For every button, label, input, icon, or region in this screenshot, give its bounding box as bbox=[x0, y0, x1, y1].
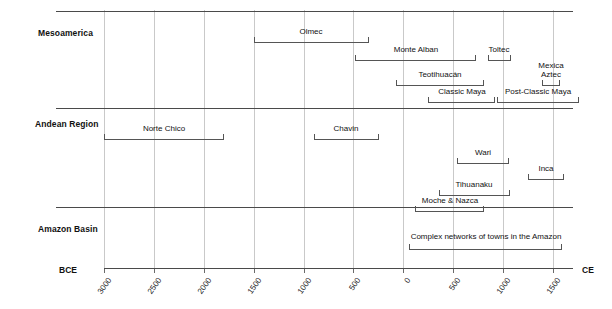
timeline-bar[interactable] bbox=[428, 97, 495, 103]
bar-label: MexicaAztec bbox=[538, 61, 563, 79]
row-rule-top bbox=[56, 11, 573, 12]
tick-label-0: 0 bbox=[402, 276, 412, 285]
bar-line bbox=[428, 102, 495, 103]
bar-label-line: Aztec bbox=[538, 70, 563, 79]
bar-label: Classic Maya bbox=[438, 87, 486, 96]
bar-line bbox=[104, 139, 224, 140]
bar-cap-end bbox=[483, 80, 484, 86]
timeline-bar[interactable] bbox=[409, 244, 562, 250]
tick-mark-1500 bbox=[553, 269, 554, 273]
bar-cap-end bbox=[483, 206, 484, 212]
timeline-bar[interactable] bbox=[415, 206, 484, 212]
gridline-1500 bbox=[553, 10, 554, 268]
bar-cap-end bbox=[378, 134, 379, 140]
tick-mark-1000 bbox=[503, 269, 504, 273]
bar-line bbox=[254, 42, 369, 43]
bar-line bbox=[415, 211, 484, 212]
bar-label: Olmec bbox=[299, 27, 322, 36]
row-rule-mesoamerica-bottom bbox=[56, 108, 573, 109]
bar-line bbox=[314, 139, 379, 140]
row-label-mesoamerica: Mesoamerica bbox=[38, 28, 93, 38]
timeline-bar[interactable] bbox=[528, 174, 564, 180]
row-label-amazon-basin: Amazon Basin bbox=[38, 224, 98, 234]
tick-mark-1000 bbox=[304, 269, 305, 273]
bar-label: Monte Alban bbox=[394, 45, 438, 54]
bar-cap-end bbox=[510, 55, 511, 61]
bar-cap-end bbox=[563, 174, 564, 180]
bar-line bbox=[528, 179, 564, 180]
bar-label: Wari bbox=[475, 148, 491, 157]
era-label-bce: BCE bbox=[59, 265, 77, 275]
bar-cap-end bbox=[223, 134, 224, 140]
bar-line bbox=[488, 60, 511, 61]
timeline-bar[interactable] bbox=[497, 97, 579, 103]
bar-label: Moche & Nazca bbox=[422, 196, 478, 205]
tick-mark-2000 bbox=[204, 269, 205, 273]
bar-cap-end bbox=[509, 190, 510, 196]
bar-label: Teotihuacán bbox=[418, 70, 461, 79]
bar-line bbox=[355, 60, 476, 61]
tick-label-3000: 3000 bbox=[96, 276, 114, 296]
gridline-1000 bbox=[304, 10, 305, 268]
timeline-bar[interactable] bbox=[355, 55, 476, 61]
row-label-andean-region: Andean Region bbox=[35, 119, 99, 129]
bar-cap-end bbox=[561, 244, 562, 250]
tick-label-500: 500 bbox=[447, 276, 462, 292]
timeline-bar[interactable] bbox=[488, 55, 511, 61]
bar-cap-end bbox=[475, 55, 476, 61]
timeline-bar[interactable] bbox=[542, 80, 560, 86]
gridline-500 bbox=[453, 10, 454, 268]
tick-mark-2500 bbox=[154, 269, 155, 273]
bar-line bbox=[542, 85, 560, 86]
bar-line bbox=[409, 249, 562, 250]
tick-mark-500 bbox=[353, 269, 354, 273]
era-label-ce: CE bbox=[582, 265, 594, 275]
tick-label-1500: 1500 bbox=[545, 276, 563, 296]
tick-label-1000: 1000 bbox=[296, 276, 314, 296]
timeline-bar[interactable] bbox=[314, 134, 379, 140]
bar-label: Chavin bbox=[334, 124, 359, 133]
tick-label-2000: 2000 bbox=[196, 276, 214, 296]
timeline-bar[interactable] bbox=[254, 37, 369, 43]
bar-line bbox=[396, 85, 484, 86]
timeline-chart: Mesoamerica Andean Region Amazon Basin B… bbox=[0, 0, 612, 309]
tick-label-500: 500 bbox=[347, 276, 362, 292]
timeline-bar[interactable] bbox=[396, 80, 484, 86]
bar-label: Complex networks of towns in the Amazon bbox=[411, 232, 562, 241]
bar-label: Norte Chico bbox=[143, 124, 185, 133]
tick-mark-0 bbox=[403, 269, 404, 273]
bar-cap-end bbox=[508, 158, 509, 164]
tick-label-1000: 1000 bbox=[495, 276, 513, 296]
bar-cap-end bbox=[578, 97, 579, 103]
row-rule-andean-bottom bbox=[56, 207, 573, 208]
tick-label-2500: 2500 bbox=[146, 276, 164, 296]
timeline-bar[interactable] bbox=[457, 158, 509, 164]
bar-line bbox=[497, 102, 579, 103]
bar-label: Toltec bbox=[489, 45, 510, 54]
bar-label: Inca bbox=[538, 164, 553, 173]
tick-mark-1500 bbox=[254, 269, 255, 273]
bar-cap-end bbox=[559, 80, 560, 86]
bar-label-line: Mexica bbox=[538, 61, 563, 70]
bar-line bbox=[457, 163, 509, 164]
gridline-1500 bbox=[254, 10, 255, 268]
bar-label: Tihuanaku bbox=[455, 180, 492, 189]
bar-label: Post-Classic Maya bbox=[505, 87, 571, 96]
bar-cap-end bbox=[368, 37, 369, 43]
tick-mark-500 bbox=[453, 269, 454, 273]
tick-mark-3000 bbox=[104, 269, 105, 273]
tick-label-1500: 1500 bbox=[246, 276, 264, 296]
timeline-bar[interactable] bbox=[104, 134, 224, 140]
bar-cap-end bbox=[494, 97, 495, 103]
